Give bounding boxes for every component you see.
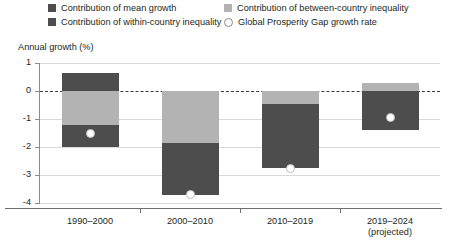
legend-item-label: Contribution of within-country inequalit… — [61, 17, 221, 27]
x-axis-tick — [340, 209, 341, 213]
y-axis-tick-label: -3 — [5, 169, 31, 179]
legend-item-label: Contribution of mean growth — [61, 3, 176, 13]
bar-segment — [162, 143, 219, 195]
chart-legend: Contribution of mean growth Contribution… — [0, 2, 449, 32]
bar-segment — [162, 91, 219, 143]
y-axis-tick-label: -2 — [5, 141, 31, 151]
bar-group[interactable] — [362, 63, 419, 203]
legend-item-global-prosperity-gap-growth-rate: Global Prosperity Gap growth rate — [224, 17, 377, 27]
growth-rate-marker — [286, 164, 295, 173]
legend-item-within-country-inequality: Contribution of within-country inequalit… — [48, 17, 221, 27]
x-axis-tick-sublabel: (projected) — [340, 227, 440, 238]
gridline — [40, 203, 440, 204]
open-circle-marker-icon — [224, 18, 233, 27]
x-axis-line — [5, 208, 442, 209]
legend-item-label: Contribution of between-country inequali… — [237, 3, 409, 13]
legend-item-mean-growth: Contribution of mean growth — [48, 3, 176, 13]
x-axis-tick-label: 1990–2000 — [40, 216, 140, 227]
bar-segment — [62, 73, 119, 91]
legend-item-label: Global Prosperity Gap growth rate — [238, 17, 377, 27]
bar-group[interactable] — [62, 63, 119, 203]
y-axis-tick-label: 1 — [5, 57, 31, 67]
y-axis-title: Annual growth (%) — [18, 42, 94, 52]
x-axis-tick-label: 2019–2024(projected) — [340, 216, 440, 238]
y-axis-tick-label: -1 — [5, 113, 31, 123]
y-axis-tick — [35, 119, 40, 120]
bar-segment — [262, 104, 319, 168]
bar-segment — [62, 91, 119, 125]
x-axis-tick-label: 2010–2019 — [240, 216, 340, 227]
bar-segment — [362, 91, 419, 130]
growth-rate-marker — [386, 113, 395, 122]
y-axis-tick-label: -4 — [5, 197, 31, 207]
plot-area — [40, 63, 440, 203]
bar-segment — [362, 83, 419, 91]
x-axis-tick — [240, 209, 241, 213]
y-axis-line — [39, 63, 40, 204]
x-axis-tick — [140, 209, 141, 213]
growth-rate-marker — [186, 190, 195, 199]
dark-square-swatch-icon — [48, 4, 56, 12]
light-square-swatch-icon — [224, 4, 232, 12]
y-axis-tick — [35, 91, 40, 92]
growth-rate-marker — [86, 129, 95, 138]
dark-square-swatch-icon — [48, 18, 56, 26]
x-axis-tick-label: 2000–2010 — [140, 216, 240, 227]
bar-group[interactable] — [162, 63, 219, 203]
y-axis-tick — [35, 203, 40, 204]
y-axis-tick — [35, 175, 40, 176]
bar-segment — [262, 91, 319, 104]
legend-item-between-country-inequality: Contribution of between-country inequali… — [224, 3, 409, 13]
y-axis-tick — [35, 147, 40, 148]
y-axis-tick-label: 0 — [5, 85, 31, 95]
chart-figure: Contribution of mean growth Contribution… — [0, 0, 449, 251]
y-axis-tick — [35, 63, 40, 64]
bar-group[interactable] — [262, 63, 319, 203]
